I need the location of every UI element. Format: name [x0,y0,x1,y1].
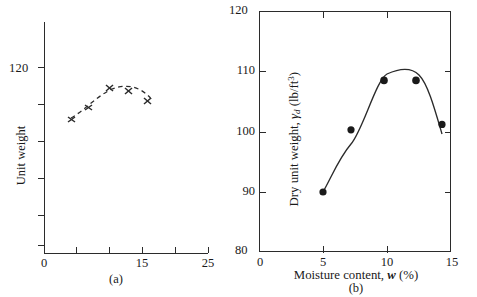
panel-a: 120 Unit weight 0 15 25 [0,0,232,297]
panel-b-x-axis-title-prefix: Moisture content, [294,268,387,282]
panel-b-data-point [438,121,445,128]
panel-a-caption: (a) [0,272,232,287]
panel-b-caption: (b) [242,281,470,296]
compaction-curve-figure: 120 Unit weight 0 15 25 [0,0,477,297]
panel-a-data-marker [144,98,151,104]
panel-b-x-axis-title-suffix: (%) [396,268,418,282]
panel-b-data-point [319,188,326,195]
panel-a-dashed-trend-line [71,86,152,118]
panel-a-data-marker [106,85,113,91]
panel-b-marker-group [319,77,445,196]
panel-b: Dry unit weight, γd (lb/ft3) 110 100 90 … [232,0,477,297]
panel-b-data-point [380,77,388,85]
panel-b-x-axis-w-symbol: w [387,268,396,282]
panel-b-trend-line [323,69,442,192]
panel-b-data-point [412,77,420,85]
panel-b-plot-area [232,0,477,297]
panel-a-marker-group [68,85,151,122]
panel-a-plot-area [0,0,232,297]
panel-b-data-point [347,126,354,133]
panel-a-data-marker [125,88,132,94]
